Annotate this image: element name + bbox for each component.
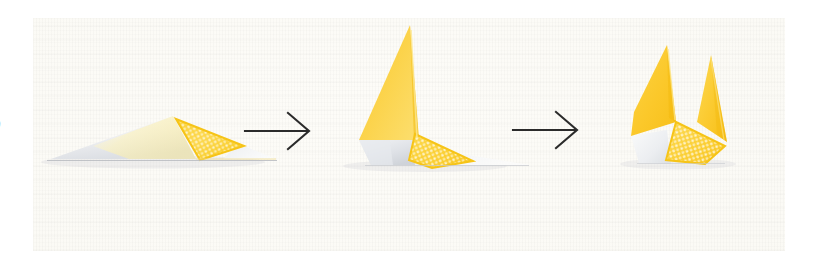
origami-step-3 <box>593 18 783 251</box>
step3-white-edge <box>631 130 671 164</box>
origami-sequence-photo <box>33 18 785 251</box>
origami-step-3-drawing <box>593 18 783 251</box>
arrow-2 <box>503 18 593 251</box>
step2-yellow-fin-left <box>359 25 419 140</box>
figure-page: 0 <box>0 0 825 277</box>
page-number: 0 <box>0 114 9 134</box>
arrow-2-drawing <box>503 18 593 251</box>
